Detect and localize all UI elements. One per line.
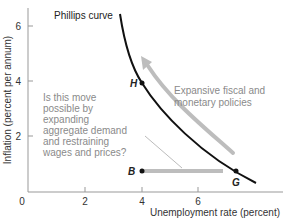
x-tick-label: 2	[82, 196, 88, 207]
y-tick-label: 4	[15, 76, 21, 87]
label-g: G	[232, 177, 240, 188]
label-h: H	[130, 78, 138, 89]
y-tick-label: 2	[15, 131, 21, 142]
leader-line	[145, 136, 182, 168]
point-h	[140, 81, 145, 86]
origin-label: 0	[19, 196, 25, 207]
label-b: B	[128, 166, 135, 177]
x-tick-label: 6	[195, 196, 201, 207]
curve-label: Phillips curve	[54, 10, 113, 21]
question-line: wages and prices?	[42, 147, 127, 158]
point-b	[140, 169, 145, 174]
policy-label-line2: monetary policies	[174, 97, 252, 108]
y-axis-title: Inflation (percent per annum)	[2, 36, 13, 164]
x-axis-title: Unemployment rate (percent)	[150, 207, 280, 218]
y-tick-label: 6	[15, 21, 21, 32]
point-g	[234, 169, 239, 174]
question-line: and restraining	[43, 136, 109, 147]
question-line: expanding	[43, 114, 89, 125]
x-tick-label: 4	[139, 196, 145, 207]
question-line: possible by	[43, 103, 93, 114]
policy-label-line1: Expansive fiscal and	[174, 85, 265, 96]
phillips-curve-chart: 6 4 2 0 2 4 6 Unemployment rate (percent…	[0, 0, 283, 220]
question-line: Is this move	[43, 92, 97, 103]
question-line: aggregate demand	[43, 125, 127, 136]
